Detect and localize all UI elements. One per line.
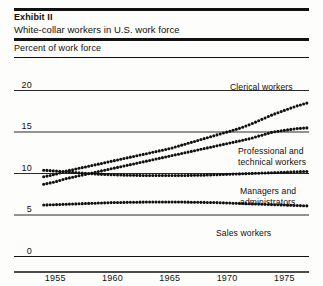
data-point — [87, 202, 90, 205]
data-point — [65, 170, 68, 173]
data-point — [190, 201, 193, 204]
data-point — [180, 152, 183, 155]
series-label-managers-line-1: Managers and — [240, 186, 296, 197]
data-point — [58, 170, 61, 173]
data-point — [126, 174, 129, 177]
data-point — [42, 175, 45, 178]
data-point — [238, 139, 241, 142]
data-point — [113, 167, 116, 170]
data-point — [203, 174, 206, 177]
series-label-managers-line-2: administrators — [240, 197, 296, 208]
data-point — [222, 201, 225, 204]
data-point — [254, 136, 257, 139]
data-point — [126, 164, 129, 167]
data-point — [209, 173, 212, 176]
data-point — [65, 177, 68, 180]
data-point — [228, 130, 231, 133]
data-point — [251, 122, 254, 125]
data-point — [190, 150, 193, 153]
data-point — [171, 146, 174, 149]
data-point — [113, 173, 116, 176]
data-point — [215, 201, 218, 204]
data-point — [94, 172, 97, 175]
plot-area — [0, 0, 323, 286]
data-point — [260, 134, 263, 137]
data-point — [264, 171, 267, 174]
data-point — [167, 200, 170, 203]
data-point — [110, 167, 113, 170]
data-point — [299, 170, 302, 173]
data-point — [106, 161, 109, 164]
data-point — [81, 171, 84, 174]
data-point — [42, 203, 45, 206]
data-point — [225, 131, 228, 134]
data-point — [55, 180, 58, 183]
data-point — [171, 174, 174, 177]
data-point — [231, 173, 234, 176]
data-point — [199, 148, 202, 151]
data-point — [97, 173, 100, 176]
data-point — [58, 203, 61, 206]
data-point — [161, 174, 164, 177]
data-point — [142, 160, 145, 163]
data-point — [222, 132, 225, 135]
data-point — [161, 149, 164, 152]
data-point — [90, 172, 93, 175]
data-point — [77, 174, 80, 177]
data-point — [49, 203, 52, 206]
data-point — [90, 202, 93, 205]
data-point — [84, 165, 87, 168]
data-point — [238, 127, 241, 130]
data-point — [183, 201, 186, 204]
data-point — [42, 169, 45, 172]
series-label-professional: Professional andtechnical workers — [238, 146, 306, 167]
data-point — [171, 154, 174, 157]
data-point — [251, 172, 254, 175]
data-point — [286, 171, 289, 174]
data-point — [161, 200, 164, 203]
y-tick-label-0: 0 — [10, 246, 32, 256]
data-point — [148, 174, 151, 177]
x-tick-label-1960: 1960 — [92, 273, 132, 283]
data-point — [219, 132, 222, 135]
data-point — [154, 174, 157, 177]
data-point — [84, 172, 87, 175]
data-point — [119, 158, 122, 161]
data-point — [42, 183, 45, 186]
data-point — [190, 141, 193, 144]
data-point — [135, 162, 138, 165]
x-tick-label-1975: 1975 — [264, 273, 304, 283]
data-point — [132, 155, 135, 158]
data-point — [113, 201, 116, 204]
data-point — [110, 201, 113, 204]
data-point — [68, 203, 71, 206]
data-point — [84, 202, 87, 205]
data-point — [206, 136, 209, 139]
data-point — [270, 131, 273, 134]
data-point — [183, 174, 186, 177]
data-point — [113, 159, 116, 162]
data-point — [142, 174, 145, 177]
data-point — [151, 158, 154, 161]
data-point — [138, 161, 141, 164]
data-point — [71, 202, 74, 205]
data-point — [116, 158, 119, 161]
data-point — [100, 201, 103, 204]
data-point — [225, 142, 228, 145]
data-point — [283, 171, 286, 174]
data-point — [302, 204, 305, 207]
y-tick-label-20: 20 — [10, 80, 32, 90]
data-point — [122, 164, 125, 167]
data-point — [296, 170, 299, 173]
data-point — [302, 127, 305, 130]
data-point — [283, 109, 286, 112]
data-point — [248, 123, 251, 126]
data-point — [142, 153, 145, 156]
data-point — [276, 171, 279, 174]
data-point — [174, 145, 177, 148]
data-point — [257, 119, 260, 122]
series-label-professional-line-1: Professional and — [238, 146, 306, 157]
data-point — [225, 173, 228, 176]
data-point — [103, 173, 106, 176]
data-point — [257, 135, 260, 138]
